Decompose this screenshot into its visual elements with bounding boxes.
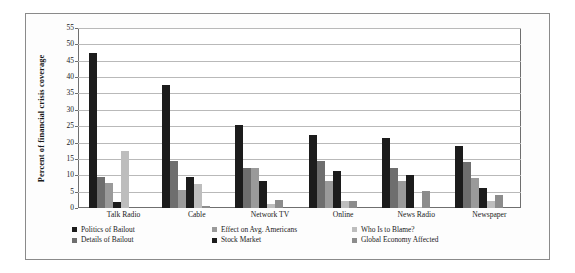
- bar-group: [373, 28, 446, 208]
- y-axis-tick-label: 20: [67, 139, 75, 147]
- legend-item[interactable]: Global Economy Affected: [352, 236, 492, 243]
- bar: [194, 184, 202, 208]
- bar: [251, 168, 259, 208]
- legend-swatch-icon: [212, 238, 217, 243]
- legend-label: Stock Market: [221, 236, 261, 243]
- legend-label: Details of Bailout: [81, 236, 134, 243]
- x-axis-tick-label: Newspaper: [446, 210, 519, 219]
- legend-label: Global Economy Affected: [361, 236, 438, 243]
- bar: [202, 206, 210, 208]
- bar-group: [446, 28, 519, 208]
- y-axis-tick-label: 50: [67, 41, 75, 49]
- bar: [162, 85, 170, 208]
- legend-label: Politics of Bailout: [81, 226, 135, 233]
- bar: [398, 181, 406, 208]
- legend-swatch-icon: [72, 227, 77, 232]
- x-axis-tick-label: Cable: [153, 210, 226, 219]
- x-axis-tick-label: News Radio: [373, 210, 446, 219]
- x-axis-tick-label: Network TV: [226, 210, 299, 219]
- bar: [341, 201, 349, 208]
- y-axis-tick-label: 5: [70, 188, 74, 196]
- bar: [275, 200, 283, 208]
- chart-figure: Percent of financial crisis coverage 051…: [25, 13, 550, 260]
- y-axis-tick-label: 45: [67, 57, 75, 65]
- legend-swatch-icon: [352, 238, 357, 243]
- bars-layer: [78, 28, 521, 208]
- bar: [186, 177, 194, 208]
- legend-column: Who Is to Blame?Global Economy Affected: [352, 226, 492, 244]
- y-axis-title: Percent of financial crisis coverage: [36, 28, 48, 208]
- bar: [414, 207, 422, 208]
- legend-label: Who Is to Blame?: [361, 226, 415, 233]
- bar: [170, 161, 178, 208]
- bar: [325, 181, 333, 208]
- bar: [243, 168, 251, 208]
- x-axis-tick-label: Talk Radio: [80, 210, 153, 219]
- legend-item[interactable]: Details of Bailout: [72, 236, 212, 243]
- legend-swatch-icon: [72, 238, 77, 243]
- y-axis-tick-label: 30: [67, 106, 75, 114]
- bar: [121, 151, 129, 208]
- y-axis-tick-label: 55: [67, 24, 75, 32]
- bar-group: [300, 28, 373, 208]
- bar-group: [80, 28, 153, 208]
- legend-label: Effect on Avg. Americans: [221, 226, 297, 233]
- bar: [89, 53, 97, 208]
- legend-swatch-icon: [212, 227, 217, 232]
- bar: [487, 201, 495, 208]
- legend-swatch-icon: [352, 227, 357, 232]
- bar: [406, 175, 414, 208]
- legend-item[interactable]: Politics of Bailout: [72, 226, 212, 233]
- plot-area: 0510152025303540455055: [78, 28, 521, 208]
- legend-column: Effect on Avg. AmericansStock Market: [212, 226, 352, 244]
- bar: [105, 183, 113, 208]
- bar: [455, 146, 463, 209]
- legend-item[interactable]: Effect on Avg. Americans: [212, 226, 352, 233]
- bar-group: [153, 28, 226, 208]
- y-axis-tick-mark: [75, 208, 78, 209]
- y-axis-tick-label: 15: [67, 155, 75, 163]
- y-axis-tick-label: 10: [67, 172, 75, 180]
- bar: [267, 204, 275, 208]
- bar: [479, 188, 487, 208]
- bar: [113, 202, 121, 208]
- bar: [333, 171, 341, 208]
- x-axis-tick-label: Online: [300, 210, 373, 219]
- y-axis-tick-label: 35: [67, 90, 75, 98]
- bar: [422, 191, 430, 208]
- chart-legend: Politics of BailoutDetails of BailoutEff…: [72, 226, 492, 244]
- bar: [235, 125, 243, 208]
- y-axis-title-text: Percent of financial crisis coverage: [38, 54, 47, 182]
- bar-group: [226, 28, 299, 208]
- bar: [349, 201, 357, 208]
- bar: [309, 135, 317, 208]
- bar: [495, 195, 503, 208]
- legend-item[interactable]: Who Is to Blame?: [352, 226, 492, 233]
- bar: [463, 162, 471, 208]
- bar: [259, 181, 267, 208]
- legend-column: Politics of BailoutDetails of Bailout: [72, 226, 212, 244]
- bar: [382, 138, 390, 208]
- y-axis-tick-label: 25: [67, 122, 75, 130]
- legend-item[interactable]: Stock Market: [212, 236, 352, 243]
- bar: [178, 190, 186, 208]
- bar: [390, 168, 398, 208]
- y-axis-tick-label: 0: [70, 204, 74, 212]
- x-axis-labels: Talk RadioCableNetwork TVOnlineNews Radi…: [78, 210, 521, 219]
- bar: [97, 177, 105, 208]
- bar: [471, 178, 479, 208]
- y-axis-tick-label: 40: [67, 73, 75, 81]
- bar: [317, 161, 325, 208]
